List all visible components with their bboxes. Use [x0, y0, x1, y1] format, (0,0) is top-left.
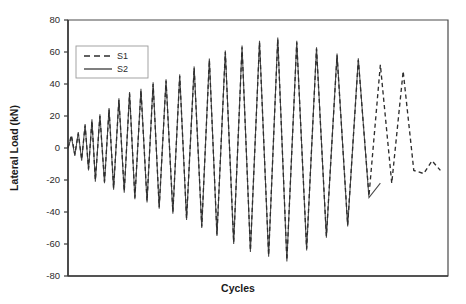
legend-label-s1: S1	[117, 51, 128, 61]
y-tick-label: -40	[46, 206, 60, 217]
y-tick-label: -60	[46, 238, 60, 249]
chart-container: 806040200-20-40-60-80 S1 S2 Cycles Later…	[0, 0, 466, 304]
y-tick-label: 0	[55, 142, 60, 153]
y-tick-label: -80	[46, 270, 60, 281]
y-tick-label: 40	[49, 78, 60, 89]
y-axis-title: Lateral Load (kN)	[8, 105, 20, 191]
legend: S1 S2	[76, 46, 148, 78]
y-axis-ticks: 806040200-20-40-60-80	[46, 14, 68, 281]
x-axis-title: Cycles	[221, 282, 255, 294]
legend-label-s2: S2	[117, 64, 128, 74]
y-tick-label: 20	[49, 110, 60, 121]
legend-box	[76, 46, 148, 78]
y-tick-label: 60	[49, 46, 60, 57]
y-tick-label: -20	[46, 174, 60, 185]
cyclic-load-line-chart: 806040200-20-40-60-80 S1 S2 Cycles Later…	[0, 0, 466, 304]
y-tick-label: 80	[49, 14, 60, 25]
